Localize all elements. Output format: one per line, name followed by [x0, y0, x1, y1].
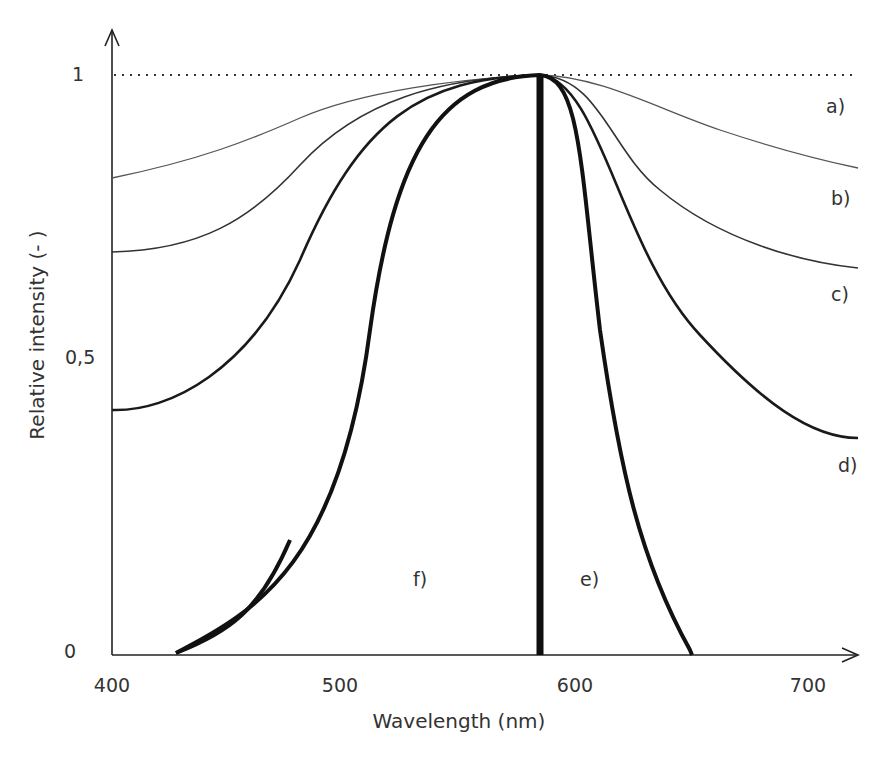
label-d: d): [838, 454, 857, 476]
curve-a: [112, 75, 858, 178]
x-tick-400: 400: [94, 674, 130, 696]
label-e: e): [580, 568, 599, 590]
label-f: f): [413, 568, 427, 590]
y-tick-1: 1: [72, 63, 84, 85]
x-tick-500: 500: [322, 674, 358, 696]
x-tick-600: 600: [557, 674, 593, 696]
curve-d-tail: [176, 540, 290, 653]
x-tick-700: 700: [790, 674, 826, 696]
y-axis-title: Relative intensity (- ): [25, 230, 49, 439]
label-b: b): [831, 187, 850, 209]
y-tick-0-5: 0,5: [65, 346, 95, 368]
label-a: a): [826, 95, 845, 117]
curve-c: [112, 75, 858, 438]
y-tick-0: 0: [64, 640, 76, 662]
x-axis-title: Wavelength (nm): [373, 709, 546, 733]
spectral-intensity-chart: 1 0,5 0 400 500 600 700 Wavelength (nm) …: [0, 0, 896, 761]
curve-e: [176, 75, 692, 655]
label-c: c): [831, 283, 849, 305]
curve-b: [112, 75, 858, 268]
